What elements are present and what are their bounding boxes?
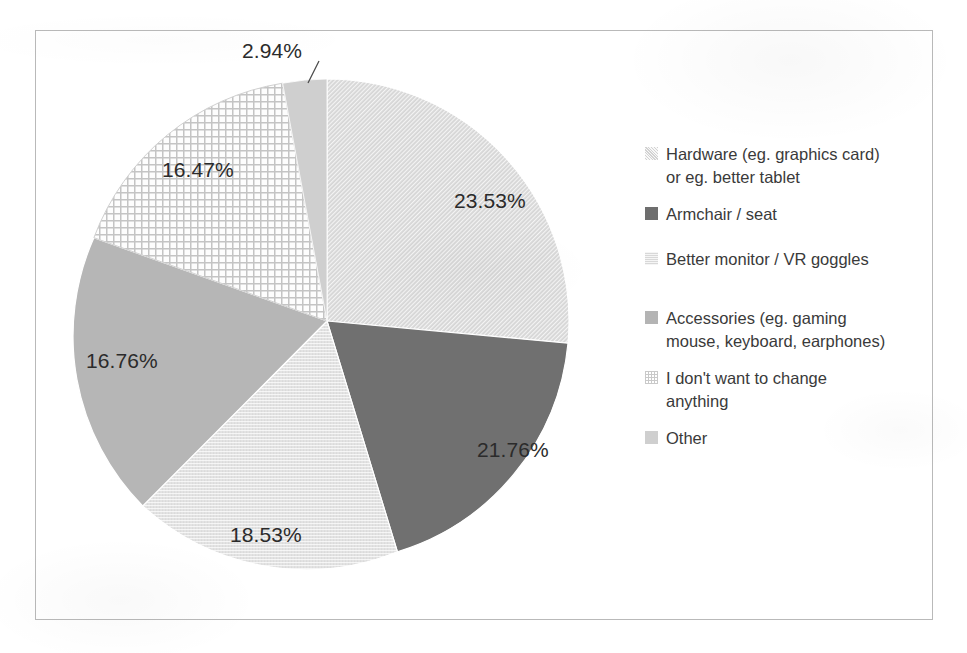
legend-item-better-monitor[interactable]: Better monitor / VR goggles	[645, 248, 945, 271]
pie-value-label-better-monitor: 18.53%	[230, 523, 302, 547]
legend-label-accessories: Accessories (eg. gaming mouse, keyboard,…	[666, 307, 885, 353]
legend-item-armchair[interactable]: Armchair / seat	[645, 203, 945, 226]
legend-swatch-icon-hardware	[645, 147, 658, 160]
legend-swatch-icon-other	[645, 431, 658, 444]
pie-value-label-armchair: 21.76%	[477, 438, 549, 462]
legend-label-other: Other	[666, 427, 707, 450]
legend-label-armchair: Armchair / seat	[666, 203, 777, 226]
legend-item-hardware[interactable]: Hardware (eg. graphics card) or eg. bett…	[645, 143, 945, 189]
legend-swatch-icon-better-monitor	[645, 252, 658, 265]
chart-legend: Hardware (eg. graphics card) or eg. bett…	[645, 143, 945, 464]
legend-item-accessories[interactable]: Accessories (eg. gaming mouse, keyboard,…	[645, 307, 945, 353]
pie-value-label-hardware: 23.53%	[454, 189, 526, 213]
pie-value-label-no-change: 16.47%	[162, 158, 234, 182]
legend-item-no-change[interactable]: I don't want to change anything	[645, 367, 945, 413]
legend-label-no-change: I don't want to change anything	[666, 367, 827, 413]
pie-slice-hardware[interactable]	[327, 79, 569, 343]
legend-item-other[interactable]: Other	[645, 427, 945, 450]
legend-swatch-icon-no-change	[645, 371, 658, 384]
legend-swatch-icon-armchair	[645, 207, 658, 220]
legend-label-better-monitor: Better monitor / VR goggles	[666, 248, 869, 271]
legend-label-hardware: Hardware (eg. graphics card) or eg. bett…	[666, 143, 880, 189]
pie-value-label-other: 2.94%	[242, 39, 302, 63]
pie-value-label-accessories: 16.76%	[86, 349, 158, 373]
legend-swatch-icon-accessories	[645, 311, 658, 324]
pie-chart-svg	[36, 31, 736, 619]
